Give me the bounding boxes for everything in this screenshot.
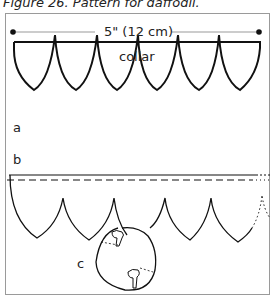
part-label-b: b bbox=[13, 152, 21, 167]
part-label-a: a bbox=[13, 120, 21, 135]
strip-b-petals bbox=[10, 175, 252, 242]
dimension-label: 5" (12 cm) bbox=[0, 24, 277, 39]
pattern-drawing bbox=[0, 0, 277, 301]
circle-c-piece bbox=[96, 228, 156, 290]
collar-label: collar bbox=[119, 49, 155, 64]
part-label-c: c bbox=[77, 256, 84, 271]
